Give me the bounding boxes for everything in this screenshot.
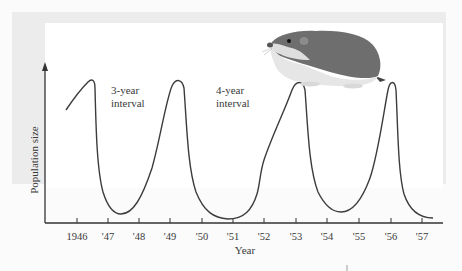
annotation-4yr: 4-year	[216, 84, 244, 96]
annotation-4yr-line2: interval	[216, 97, 250, 109]
annotation-3yr-line2: interval	[111, 97, 145, 109]
y-axis	[42, 62, 48, 223]
y-axis-arrow-icon	[42, 62, 48, 71]
population-chart: 1946 '47 '48 '49 '50 '51 '52 '53 '54 '55…	[0, 0, 462, 271]
eye-icon	[287, 39, 291, 43]
tick-label: '56	[385, 231, 397, 242]
x-tick-labels: 1946 '47 '48 '49 '50 '51 '52 '53 '54 '55…	[67, 231, 429, 242]
lemming-illustration	[262, 31, 386, 89]
tick-label: '49	[164, 231, 176, 242]
tick-label: '57	[416, 231, 428, 242]
tick-label: '55	[353, 231, 365, 242]
tick-label: '48	[133, 231, 145, 242]
x-axis-title: Year	[235, 244, 256, 256]
x-axis	[45, 218, 443, 223]
tick-label: '54	[321, 231, 334, 242]
tick-label: '51	[227, 231, 239, 242]
y-axis-title: Population size	[28, 126, 40, 194]
annotation-3yr: 3-year	[111, 84, 139, 96]
tick-label: '47	[102, 231, 114, 242]
tick-label: '53	[290, 231, 302, 242]
tick-label: '50	[196, 231, 208, 242]
tick-label: 1946	[67, 231, 88, 242]
tick-label: '52	[258, 231, 270, 242]
